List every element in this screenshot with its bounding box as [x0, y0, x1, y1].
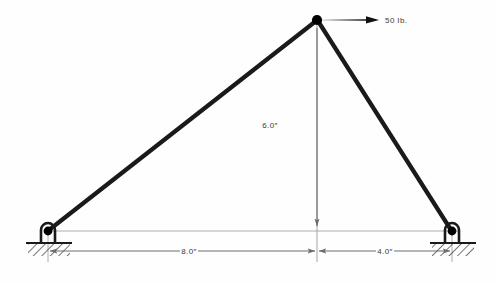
truss-diagram-canvas: 50 lb. 6.0″ — [0, 0, 496, 284]
load-arrow-shape — [317, 16, 379, 23]
right-support-pin — [448, 227, 457, 236]
right-span-dimension-label: 4.0″ — [377, 247, 393, 256]
applied-load-arrow — [317, 16, 379, 23]
left-support-pin — [44, 227, 53, 236]
left-span-dimension-label: 8.0″ — [181, 247, 197, 256]
right-inclined-member — [318, 21, 451, 230]
vertical-dimension-label: 6.0″ — [262, 121, 278, 130]
truss-members — [49, 21, 451, 230]
right-support-hatching — [432, 243, 474, 256]
left-support-hatching — [28, 243, 70, 256]
load-label: 50 lb. — [385, 16, 408, 25]
truss-diagram-svg: 50 lb. 6.0″ — [0, 0, 496, 284]
